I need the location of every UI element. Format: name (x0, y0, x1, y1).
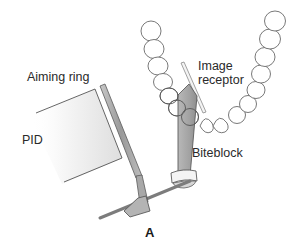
image-receptor-label-line1: Image (198, 59, 233, 73)
image-receptor-label-line2: receptor (198, 73, 244, 87)
diagram-canvas (0, 0, 299, 241)
biteblock-label: Biteblock (192, 146, 243, 160)
panel-label: A (145, 225, 154, 240)
pid-label: PID (22, 133, 43, 147)
aiming-ring-label: Aiming ring (27, 70, 90, 84)
xcp-instrument-diagram: Aiming ring PID Image receptor Biteblock… (0, 0, 299, 241)
